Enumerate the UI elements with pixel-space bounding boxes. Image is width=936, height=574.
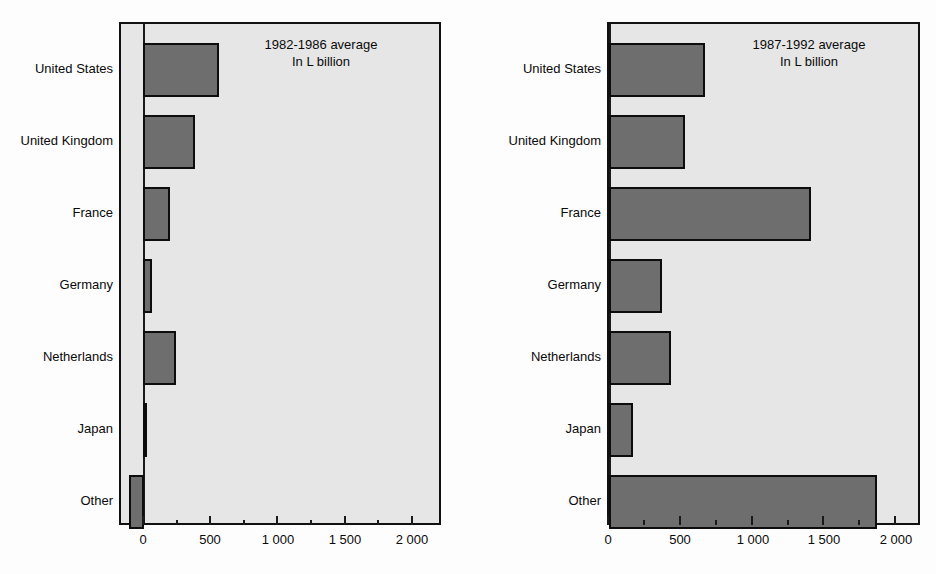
- category-label-netherlands: Netherlands: [0, 349, 113, 364]
- bars-layer-left: [121, 24, 439, 523]
- category-label-netherlands: Netherlands: [488, 349, 601, 364]
- bar-united-kingdom: [609, 115, 685, 169]
- axis-tick-2000: [894, 516, 896, 525]
- panel-annotation-left: 1982-1986 average In L billion: [226, 36, 416, 70]
- category-label-japan: Japan: [0, 421, 113, 436]
- axis-tick-1500: [344, 516, 346, 525]
- bars-layer-right: [609, 24, 918, 523]
- annotation-title-left: 1982-1986 average: [226, 36, 416, 53]
- axis-tick-minor-1250: [787, 520, 789, 525]
- axis-tick-0: [607, 516, 609, 525]
- axis-tick-label-500: 500: [199, 532, 221, 547]
- axis-tick-1000: [751, 516, 753, 525]
- axis-tick-minor-1750: [377, 520, 379, 525]
- axis-tick-500: [679, 516, 681, 525]
- bar-netherlands: [143, 331, 176, 385]
- category-label-other: Other: [0, 493, 113, 508]
- axis-tick-label-2000: 2 000: [880, 532, 913, 547]
- axis-tick-label-0: 0: [139, 532, 146, 547]
- category-label-other: Other: [488, 493, 601, 508]
- axis-tick-label-0: 0: [604, 532, 611, 547]
- axis-tick-2000: [411, 516, 413, 525]
- axis-tick-minor-1250: [310, 520, 312, 525]
- axis-tick-label-2000: 2 000: [396, 532, 429, 547]
- chart-page: 1982-1986 average In L billion United St…: [0, 0, 936, 574]
- plot-area-left: 1982-1986 average In L billion: [119, 22, 441, 525]
- chart-panel-1982-1986: 1982-1986 average In L billion United St…: [0, 0, 468, 574]
- category-label-germany: Germany: [0, 277, 113, 292]
- bar-other: [609, 475, 877, 529]
- annotation-subtitle-left: In L billion: [226, 53, 416, 70]
- annotation-title-right: 1987-1992 average: [714, 36, 904, 53]
- bar-germany: [609, 259, 662, 313]
- bar-united-states: [143, 43, 219, 97]
- bar-netherlands: [609, 331, 671, 385]
- plot-area-right: 1987-1992 average In L billion: [607, 22, 920, 525]
- category-label-united-states: United States: [488, 61, 601, 76]
- bar-japan: [609, 403, 633, 457]
- bar-germany: [143, 259, 152, 313]
- category-label-germany: Germany: [488, 277, 601, 292]
- axis-tick-minor-250: [176, 520, 178, 525]
- category-label-japan: Japan: [488, 421, 601, 436]
- axis-tick-minor-1750: [858, 520, 860, 525]
- axis-tick-minor-250: [643, 520, 645, 525]
- axis-tick-label-1000: 1 000: [737, 532, 770, 547]
- axis-tick-minor-750: [243, 520, 245, 525]
- category-label-united-states: United States: [0, 61, 113, 76]
- bar-japan: [143, 403, 147, 457]
- panel-annotation-right: 1987-1992 average In L billion: [714, 36, 904, 70]
- bar-united-states: [609, 43, 705, 97]
- axis-tick-1500: [822, 516, 824, 525]
- bar-france: [609, 187, 811, 241]
- axis-tick-minor-750: [715, 520, 717, 525]
- category-label-france: France: [0, 205, 113, 220]
- bar-united-kingdom: [143, 115, 195, 169]
- axis-tick-label-500: 500: [669, 532, 691, 547]
- chart-panel-1987-1992: 1987-1992 average In L billion United St…: [468, 0, 936, 574]
- annotation-subtitle-right: In L billion: [714, 53, 904, 70]
- axis-tick-0: [142, 516, 144, 525]
- category-label-france: France: [488, 205, 601, 220]
- axis-tick-label-1000: 1 000: [262, 532, 295, 547]
- bar-france: [143, 187, 170, 241]
- axis-tick-label-1500: 1 500: [808, 532, 841, 547]
- axis-tick-1000: [276, 516, 278, 525]
- axis-tick-label-1500: 1 500: [329, 532, 362, 547]
- axis-tick-500: [209, 516, 211, 525]
- category-label-united-kingdom: United Kingdom: [488, 133, 601, 148]
- category-label-united-kingdom: United Kingdom: [0, 133, 113, 148]
